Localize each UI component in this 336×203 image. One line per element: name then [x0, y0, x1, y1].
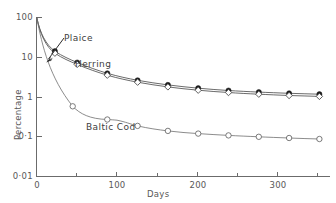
data-point: [226, 133, 231, 138]
chart-plot-area: [0, 0, 336, 203]
x-tick-label-300: 300: [266, 180, 290, 190]
data-point: [317, 136, 322, 141]
series-line-plaice: [37, 18, 320, 95]
x-tick-label-0: 0: [29, 180, 45, 190]
x-ticks-group: [37, 172, 318, 177]
x-axis-title: Days: [147, 189, 169, 199]
data-point: [165, 128, 170, 133]
data-point: [286, 135, 291, 140]
data-point: [256, 134, 261, 139]
series-label-baltic-cod: Baltic Cod: [86, 122, 136, 132]
y-tick-label-10: 10: [6, 52, 33, 62]
y-tick-label-100: 100: [6, 12, 33, 22]
series-line-herring: [37, 18, 320, 97]
series-label-plaice: Plaice: [64, 33, 93, 43]
annotation-arrow-to-baltic-cod: [46, 38, 64, 63]
series-label-herring: Herring: [75, 59, 111, 69]
y-ticks-group: [37, 18, 42, 177]
data-point: [70, 104, 75, 109]
x-tick-label-200: 200: [186, 180, 210, 190]
x-tick-label-100: 100: [105, 180, 129, 190]
y-axis-title: Percentage: [13, 89, 23, 140]
data-point: [135, 123, 140, 128]
data-point: [196, 131, 201, 136]
series-markers-herring: [52, 50, 323, 100]
chart-container: 100 10 1 0·1 0·01 0 100 200 300 Days Per…: [0, 0, 336, 203]
